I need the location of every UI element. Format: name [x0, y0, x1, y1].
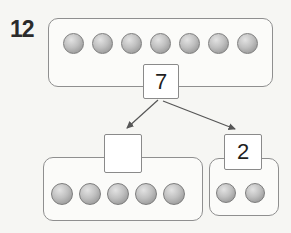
counter-chip [208, 33, 229, 54]
top-value-label: 7 [155, 71, 167, 93]
counter-chip [245, 183, 265, 203]
counter-chip [179, 33, 200, 54]
right-value-label: 2 [237, 141, 249, 163]
left-branch-arrow [127, 100, 158, 128]
counter-chip [63, 33, 84, 54]
counter-chip [150, 33, 171, 54]
counter-chip [51, 183, 73, 205]
counter-chip [216, 183, 236, 203]
counter-chip [237, 33, 258, 54]
counter-chip [107, 183, 129, 205]
number-decomposition-diagram: 12 7 2 [0, 0, 291, 233]
problem-number: 12 [10, 16, 34, 43]
top-value-box: 7 [143, 64, 179, 99]
left-value-box [104, 134, 142, 173]
counter-chip [121, 33, 142, 54]
counter-chip [79, 183, 101, 205]
right-branch-arrow [163, 101, 235, 129]
counter-chip [135, 183, 157, 205]
right-value-box: 2 [224, 134, 262, 170]
counter-chip [163, 183, 185, 205]
counter-chip [92, 33, 113, 54]
